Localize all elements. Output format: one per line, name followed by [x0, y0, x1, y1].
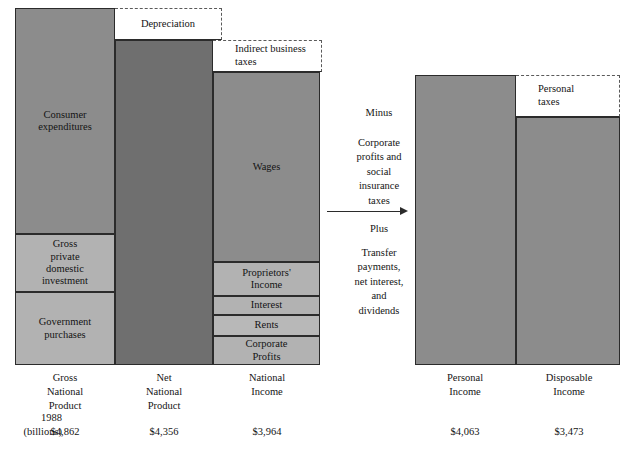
- segment-consumer-expenditures: Consumer expenditures: [15, 8, 115, 234]
- value-personal-income: $4,063: [425, 426, 505, 437]
- national-income-flow-diagram: Consumer expenditures Gross private dome…: [0, 0, 630, 452]
- segment-disposable-income-body: [516, 117, 620, 365]
- transition-arrow: [327, 206, 409, 216]
- caption-national-income: National Income: [227, 371, 307, 399]
- segment-rents-label: Rents: [252, 319, 282, 331]
- segment-proprietors-income: Proprietors' Income: [213, 262, 320, 296]
- segment-net-national-product-body: [115, 40, 213, 365]
- transition-plus-word: Plus: [340, 222, 418, 236]
- segment-wages-label: Wages: [250, 161, 284, 173]
- transition-arrow-line: [327, 211, 401, 212]
- segment-interest: Interest: [213, 296, 320, 315]
- callout-depreciation-label: Depreciation: [115, 18, 221, 31]
- value-national-income: $3,964: [227, 426, 307, 437]
- caption-gross-national-product: Gross National Product: [25, 371, 105, 414]
- segment-consumer-expenditures-label: Consumer expenditures: [35, 109, 95, 134]
- segment-rents: Rents: [213, 315, 320, 336]
- transition-plus-items: Transfer payments, net interest, and div…: [340, 246, 418, 318]
- transition-minus-items: Corporate profits and social insurance t…: [340, 136, 418, 208]
- callout-personal-taxes-label: Personal taxes: [516, 83, 580, 108]
- caption-disposable-income: Disposable Income: [528, 371, 610, 399]
- segment-gross-private-domestic-investment-label: Gross private domestic investment: [39, 238, 91, 288]
- segment-proprietors-income-label: Proprietors' Income: [239, 267, 294, 292]
- callout-indirect-business-taxes: Indirect business taxes: [213, 40, 322, 72]
- segment-corporate-profits-label: Corporate Profits: [243, 338, 291, 363]
- segment-government-purchases-label: Government purchases: [36, 316, 95, 341]
- segment-government-purchases: Government purchases: [15, 292, 115, 365]
- value-gross-national-product: $4,862: [25, 426, 105, 437]
- segment-gross-private-domestic-investment: Gross private domestic investment: [15, 234, 115, 292]
- callout-personal-taxes: Personal taxes: [516, 75, 620, 117]
- segment-corporate-profits: Corporate Profits: [213, 336, 320, 365]
- segment-interest-label: Interest: [248, 299, 286, 311]
- value-disposable-income: $3,473: [528, 426, 610, 437]
- caption-personal-income: Personal Income: [425, 371, 505, 399]
- segment-personal-income-body: [415, 75, 516, 365]
- transition-minus-word: Minus: [340, 106, 418, 120]
- caption-net-national-product: Net National Product: [124, 371, 204, 414]
- callout-depreciation: Depreciation: [115, 8, 222, 40]
- value-net-national-product: $4,356: [124, 426, 204, 437]
- callout-indirect-business-taxes-label: Indirect business taxes: [213, 43, 312, 68]
- transition-arrow-head: [400, 207, 408, 215]
- segment-wages: Wages: [213, 72, 320, 262]
